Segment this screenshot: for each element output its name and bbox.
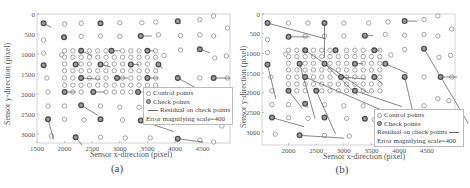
caption-b: (b) bbox=[322, 163, 362, 175]
svg-text:0: 0 bbox=[32, 11, 36, 19]
svg-text:1500: 1500 bbox=[30, 145, 45, 153]
control-point-marker-icon bbox=[377, 113, 382, 118]
svg-text:1000: 1000 bbox=[246, 50, 261, 58]
svg-text:500: 500 bbox=[250, 30, 261, 38]
legend-entry-scale: Error magnifying scale=400 bbox=[377, 137, 461, 146]
svg-text:2500: 2500 bbox=[21, 111, 36, 119]
svg-text:2500: 2500 bbox=[246, 109, 261, 117]
check-point-marker-icon bbox=[146, 99, 151, 104]
legend-b: Control points Check points Residual on … bbox=[374, 109, 464, 147]
legend-a: Control points Check points Residual on … bbox=[143, 87, 233, 125]
svg-text:2000: 2000 bbox=[21, 91, 36, 99]
svg-text:2000: 2000 bbox=[58, 145, 73, 153]
legend-entry-check: Check points bbox=[377, 120, 461, 129]
svg-text:4500: 4500 bbox=[420, 147, 435, 155]
svg-text:1500: 1500 bbox=[21, 71, 36, 79]
svg-text:2000: 2000 bbox=[282, 147, 297, 155]
chart-panel-a: 1500200025003000350040004500050010001500… bbox=[0, 0, 235, 188]
x-axis-label-a: Sensor x-direction (pixel) bbox=[90, 150, 172, 159]
caption-a: (a) bbox=[97, 162, 137, 174]
control-point-marker-icon bbox=[146, 91, 151, 96]
residual-line-icon bbox=[148, 110, 158, 111]
svg-text:1000: 1000 bbox=[21, 51, 36, 59]
legend-entry-check: Check points bbox=[146, 98, 230, 107]
chart-panel-b: 2000250030003500400045000500100015002000… bbox=[235, 0, 470, 188]
legend-entry-scale: Error magnifying scale=400 bbox=[146, 115, 230, 124]
legend-entry-control: Control points bbox=[377, 111, 461, 120]
svg-text:3000: 3000 bbox=[21, 131, 36, 139]
svg-text:2500: 2500 bbox=[309, 147, 324, 155]
svg-text:0: 0 bbox=[257, 11, 261, 19]
legend-entry-residual: Residual on check points bbox=[146, 106, 230, 115]
y-axis-label-a: Sensor y-direction (pixel) bbox=[3, 43, 12, 125]
svg-text:500: 500 bbox=[25, 31, 36, 39]
legend-entry-control: Control points bbox=[146, 89, 230, 98]
y-axis-label-b: Sensor y-direction (pixel) bbox=[239, 46, 248, 128]
x-axis-label-b: Sensor x-direction (pixel) bbox=[323, 152, 405, 161]
legend-entry-residual: Residual on check points bbox=[377, 128, 461, 137]
svg-text:1500: 1500 bbox=[246, 70, 261, 78]
check-point-marker-icon bbox=[377, 121, 382, 126]
svg-text:2000: 2000 bbox=[246, 89, 261, 97]
svg-text:4500: 4500 bbox=[196, 145, 211, 153]
svg-text:3000: 3000 bbox=[246, 129, 261, 137]
residual-line-icon bbox=[449, 132, 459, 133]
